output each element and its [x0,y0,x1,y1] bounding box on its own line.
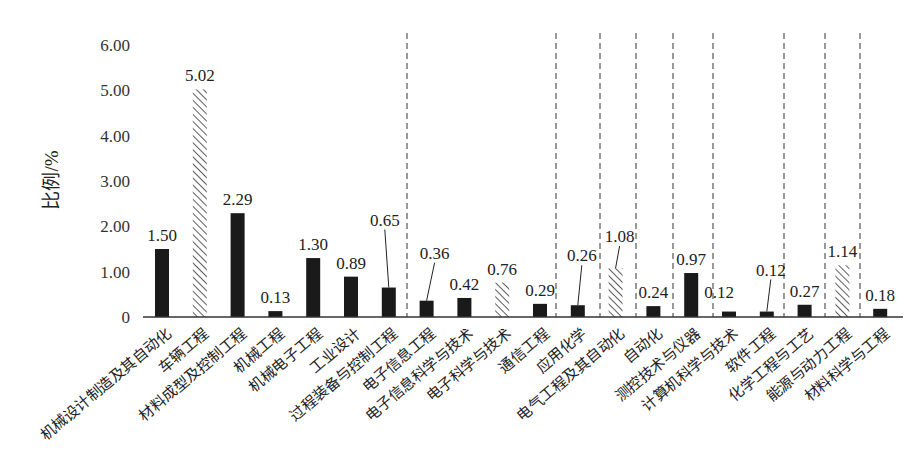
bar-hatched [193,89,207,317]
bar-value-label: 5.02 [185,66,215,85]
leader-line [578,265,582,305]
bar-value-label: 1.50 [147,226,177,245]
y-tick-label: 1.00 [100,263,130,282]
bars [155,89,887,317]
bar-value-label: 2.29 [223,190,253,209]
bar-solid [268,311,282,317]
bar-solid [571,305,585,317]
bar-value-label: 0.65 [370,211,400,230]
bar-chart: 比例/% 01.002.003.004.005.006.00 1.505.022… [0,0,922,464]
bar-solid [231,213,245,317]
leader-line [767,280,771,312]
bar-value-label: 0.42 [450,275,480,294]
bar-solid [420,301,434,317]
leader-line [427,263,435,301]
bar-solid [533,304,547,317]
bar-solid [306,258,320,317]
bar-solid [457,298,471,317]
y-axis-title: 比例/% [41,150,62,209]
bar-value-label: 0.89 [336,254,366,273]
bar-value-label: 0.12 [704,283,734,302]
bar-hatched [835,265,849,317]
bar-hatched [609,268,623,317]
bar-value-label: 0.12 [756,261,786,280]
y-tick-label: 0 [122,308,131,327]
leader-line [616,246,620,268]
bar-solid [344,277,358,317]
bar-solid [684,273,698,317]
value-labels: 1.505.022.290.131.300.890.650.360.420.76… [147,66,895,311]
bar-solid [760,312,774,317]
bar-solid [722,312,736,317]
y-axis-ticks: 01.002.003.004.005.006.00 [100,36,130,327]
leader-line [385,230,389,288]
x-category-label: 机械设计制造及其自动化 [37,325,174,443]
bar-value-label: 0.13 [261,288,291,307]
bar-value-label: 0.24 [639,283,669,302]
bar-value-label: 1.08 [605,227,635,246]
y-axis-label: 比例/% [41,150,62,209]
bar-hatched [495,283,509,317]
bar-value-label: 0.26 [567,246,597,265]
y-tick-label: 4.00 [100,127,130,146]
bar-solid [646,306,660,317]
bar-value-label: 0.27 [790,282,820,301]
bar-solid [382,288,396,317]
bar-value-label: 0.18 [865,286,895,305]
y-tick-label: 3.00 [100,172,130,191]
bar-solid [155,249,169,317]
x-axis-labels: 机械设计制造及其自动化车辆工程材料成型及控制工程机械工程机械电子工程工业设计过程… [37,324,892,443]
bar-solid [798,305,812,317]
y-tick-label: 5.00 [100,81,130,100]
y-tick-label: 2.00 [100,217,130,236]
bar-solid [873,309,887,317]
bar-value-label: 0.29 [525,281,555,300]
y-tick-label: 6.00 [100,36,130,55]
bar-value-label: 1.30 [298,235,328,254]
bar-value-label: 0.97 [676,250,706,269]
bar-value-label: 0.36 [420,244,450,263]
bar-value-label: 1.14 [828,242,858,261]
bar-value-label: 0.76 [487,260,517,279]
